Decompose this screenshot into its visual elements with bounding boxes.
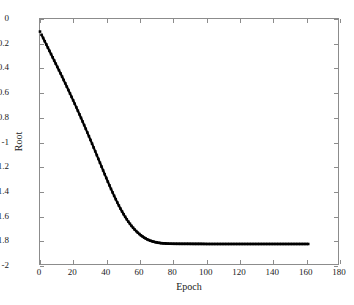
x-tick-mark — [40, 260, 41, 264]
x-tick-mark — [307, 260, 308, 264]
x-tick-mark — [273, 19, 274, 23]
figure-canvas: 0204060801001201401601800-0.2-0.4-0.6-0.… — [0, 0, 354, 305]
x-tick-mark — [173, 260, 174, 264]
x-tick-mark — [173, 19, 174, 23]
x-tick-mark — [240, 260, 241, 264]
y-tick-label: -1.6 — [0, 210, 9, 221]
x-tick-label: 100 — [199, 267, 213, 278]
y-tick-label: -1 — [2, 136, 10, 147]
x-tick-label: 180 — [332, 267, 346, 278]
x-tick-mark — [340, 260, 341, 264]
y-tick-mark — [40, 19, 44, 20]
x-tick-label: 120 — [232, 267, 246, 278]
y-tick-label: -1.8 — [0, 235, 9, 246]
x-tick-mark — [107, 260, 108, 264]
y-tick-mark — [334, 192, 338, 193]
x-tick-label: 140 — [266, 267, 280, 278]
x-tick-mark — [73, 19, 74, 23]
x-tick-mark — [73, 260, 74, 264]
y-tick-mark — [334, 167, 338, 168]
x-tick-label: 160 — [299, 267, 313, 278]
y-tick-mark — [40, 217, 44, 218]
x-tick-mark — [140, 260, 141, 264]
y-tick-mark — [40, 118, 44, 119]
x-tick-mark — [207, 19, 208, 23]
y-axis-label: Root — [12, 18, 26, 265]
x-tick-label: 40 — [101, 267, 110, 278]
y-tick-mark — [334, 44, 338, 45]
y-tick-label: -0.8 — [0, 111, 9, 122]
series-line-root — [42, 35, 309, 244]
y-tick-label: -1.4 — [0, 185, 9, 196]
y-tick-label: -0.4 — [0, 62, 9, 73]
y-tick-label: -1.2 — [0, 161, 9, 172]
y-tick-label: -2 — [2, 260, 10, 271]
plot-area — [39, 18, 339, 265]
x-tick-mark — [140, 19, 141, 23]
y-tick-mark — [334, 93, 338, 94]
y-tick-mark — [334, 68, 338, 69]
y-tick-mark — [40, 143, 44, 144]
y-tick-label: 0 — [5, 13, 10, 24]
x-tick-mark — [107, 19, 108, 23]
x-tick-label: 0 — [37, 267, 42, 278]
x-tick-mark — [340, 19, 341, 23]
x-tick-mark — [273, 260, 274, 264]
y-tick-label: -0.2 — [0, 37, 9, 48]
y-tick-mark — [40, 44, 44, 45]
y-tick-mark — [334, 241, 338, 242]
y-tick-mark — [40, 241, 44, 242]
y-tick-label: -0.6 — [0, 87, 9, 98]
y-tick-mark — [334, 217, 338, 218]
y-tick-mark — [334, 143, 338, 144]
y-tick-mark — [40, 167, 44, 168]
y-tick-mark — [334, 19, 338, 20]
data-series-layer — [40, 19, 338, 264]
y-tick-mark — [334, 118, 338, 119]
x-tick-mark — [307, 19, 308, 23]
x-tick-mark — [240, 19, 241, 23]
x-tick-mark — [207, 260, 208, 264]
y-tick-mark — [40, 93, 44, 94]
x-tick-label: 80 — [168, 267, 177, 278]
y-tick-mark — [40, 192, 44, 193]
y-tick-mark — [40, 68, 44, 69]
x-tick-label: 60 — [135, 267, 144, 278]
x-axis-label: Epoch — [39, 281, 339, 292]
x-tick-label: 20 — [68, 267, 77, 278]
series-markers-root — [39, 30, 310, 245]
